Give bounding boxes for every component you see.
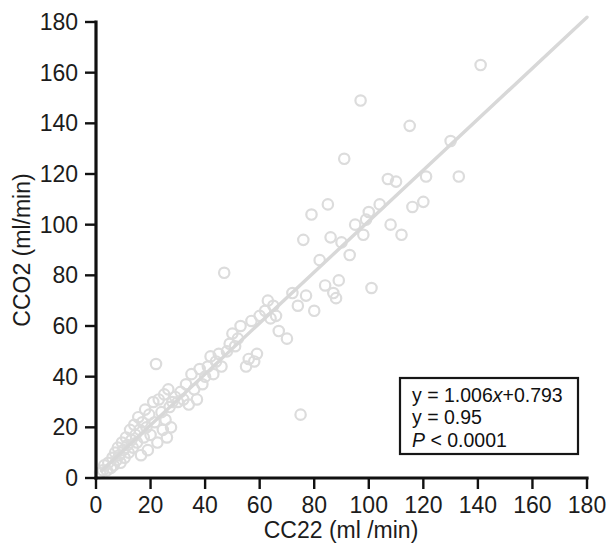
- data-point: [396, 230, 406, 240]
- data-point: [407, 202, 417, 212]
- y-axis-tick-label: 80: [52, 262, 78, 288]
- x-axis-tick-label: 80: [301, 492, 327, 518]
- plot-canvas: 020406080100120140160180 020406080100120…: [0, 0, 616, 543]
- data-point: [219, 268, 229, 278]
- data-point: [306, 209, 316, 219]
- x-axis-tick-label: 120: [404, 492, 442, 518]
- data-point: [295, 409, 305, 419]
- data-point: [366, 283, 376, 293]
- y-axis-tick-label: 180: [40, 9, 78, 35]
- y-axis-tick-label: 140: [40, 110, 78, 136]
- data-point: [344, 250, 354, 260]
- y-axis-tick-label-group: 020406080100120140160180: [40, 9, 78, 491]
- correlation-coefficient-text: y = 0.95: [412, 406, 482, 428]
- data-point: [418, 197, 428, 207]
- data-point: [151, 359, 161, 369]
- data-point: [293, 301, 303, 311]
- data-point: [323, 199, 333, 209]
- data-point: [454, 171, 464, 181]
- regression-equation-text: y = 1.006x+0.793: [412, 384, 563, 406]
- x-axis-tick-label: 20: [138, 492, 164, 518]
- x-axis-tick-group: [96, 478, 587, 489]
- x-axis-title: CC22 (ml /min): [264, 517, 419, 543]
- y-axis-tick-label: 120: [40, 161, 78, 187]
- data-point: [325, 232, 335, 242]
- y-axis-tick-label: 60: [52, 313, 78, 339]
- x-axis-tick-label: 160: [513, 492, 551, 518]
- data-point: [192, 394, 202, 404]
- y-axis-tick-label: 100: [40, 212, 78, 238]
- data-point: [301, 290, 311, 300]
- x-axis-tick-label: 60: [247, 492, 273, 518]
- data-point: [404, 121, 414, 131]
- data-point: [298, 235, 308, 245]
- p-value-text: P < 0.0001: [412, 429, 507, 451]
- y-axis-tick-label: 20: [52, 414, 78, 440]
- data-point: [339, 154, 349, 164]
- y-axis-tick-label: 40: [52, 364, 78, 390]
- x-axis-tick-label: 100: [350, 492, 388, 518]
- y-axis-title: CCO2 (ml/min): [9, 173, 35, 326]
- x-axis-tick-label: 40: [192, 492, 218, 518]
- data-point: [385, 219, 395, 229]
- y-axis-tick-group: [85, 22, 96, 478]
- x-axis-tick-label: 140: [459, 492, 497, 518]
- scatter-plot-figure: 020406080100120140160180 020406080100120…: [0, 0, 616, 543]
- y-axis-tick-label: 160: [40, 60, 78, 86]
- data-point: [334, 275, 344, 285]
- x-axis-tick-label: 0: [90, 492, 103, 518]
- statistics-box: y = 1.006x+0.793 y = 0.95 P < 0.0001: [400, 378, 578, 454]
- y-axis-tick-label: 0: [65, 465, 78, 491]
- data-point: [309, 306, 319, 316]
- data-point: [475, 60, 485, 70]
- data-point: [355, 95, 365, 105]
- data-point: [235, 321, 245, 331]
- x-axis-tick-label: 180: [568, 492, 606, 518]
- x-axis-tick-label-group: 020406080100120140160180: [90, 492, 607, 518]
- data-point: [282, 333, 292, 343]
